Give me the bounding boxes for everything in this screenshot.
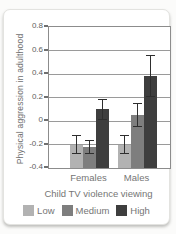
error-bar-cap: [85, 153, 94, 154]
y-tick-mark: [44, 119, 48, 121]
gridline-0.6: [49, 50, 170, 51]
error-bar-line: [89, 140, 90, 154]
error-bar-cap: [85, 140, 94, 141]
legend-label-low: Low: [37, 205, 54, 216]
legend-label-high: High: [130, 205, 150, 216]
error-bar-cap: [146, 96, 155, 97]
legend-item-low: Low: [23, 205, 54, 216]
chart-card: Physical aggression in adulthood 0.80.60…: [3, 9, 170, 225]
error-bar-cap: [72, 135, 81, 136]
y-tick-mark: [44, 143, 48, 145]
error-bar-males-high: [146, 55, 155, 97]
legend-item-medium: Medium: [62, 205, 110, 216]
error-bar-line: [137, 103, 138, 127]
legend-swatch-low: [23, 205, 34, 216]
y-tick-label: 0.8: [4, 21, 43, 31]
legend-swatch-medium: [62, 205, 73, 216]
error-bar-cap: [120, 135, 129, 136]
y-tick-mark: [44, 166, 48, 168]
plot-area: [48, 26, 171, 169]
error-bar-line: [150, 55, 151, 97]
y-tick-label: -0.4: [4, 162, 43, 172]
error-bar-cap: [133, 126, 142, 127]
y-tick-label: -0.2: [4, 139, 43, 149]
error-bar-cap: [98, 119, 107, 120]
error-bar-cap: [133, 103, 142, 104]
error-bar-males-low: [120, 135, 129, 154]
category-label-males: Males: [102, 172, 172, 183]
error-bar-cap: [98, 99, 107, 100]
legend-title: Child TV violence viewing: [28, 188, 169, 199]
y-tick-mark: [44, 25, 48, 27]
y-tick-mark: [44, 49, 48, 51]
error-bar-line: [124, 135, 125, 154]
legend-swatch-high: [116, 205, 127, 216]
error-bar-line: [102, 99, 103, 120]
error-bar-cap: [72, 153, 81, 154]
error-bar-cap: [146, 55, 155, 56]
y-tick-label: 0.4: [4, 68, 43, 78]
error-bar-males-medium: [133, 103, 142, 127]
y-tick-mark: [44, 72, 48, 74]
legend: LowMediumHigh: [4, 205, 169, 216]
error-bar-females-high: [98, 99, 107, 120]
error-bar-females-medium: [85, 140, 94, 154]
legend-label-medium: Medium: [76, 205, 110, 216]
legend-item-high: High: [116, 205, 150, 216]
error-bar-cap: [120, 153, 129, 154]
error-bar-line: [76, 135, 77, 154]
y-tick-label: 0.2: [4, 92, 43, 102]
y-tick-mark: [44, 96, 48, 98]
y-tick-label: 0.6: [4, 45, 43, 55]
error-bar-females-low: [72, 135, 81, 154]
page-background: { "chart_data": { "type": "bar", "title"…: [0, 0, 176, 234]
y-tick-label: 0: [4, 115, 43, 125]
